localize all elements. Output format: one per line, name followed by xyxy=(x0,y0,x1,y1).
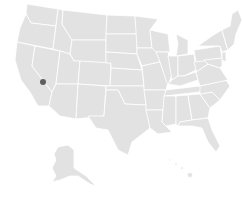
state-arkansas[interactable] xyxy=(144,90,166,110)
state-new-mexico[interactable] xyxy=(76,84,106,119)
state-kansas[interactable] xyxy=(110,68,144,86)
contiguous-us xyxy=(15,4,242,155)
state-montana[interactable] xyxy=(62,10,107,40)
location-marker[interactable] xyxy=(40,79,46,85)
state-florida[interactable] xyxy=(178,118,220,152)
state-nebraska[interactable] xyxy=(106,52,142,70)
state-south-dakota[interactable] xyxy=(106,34,137,54)
state-michigan[interactable] xyxy=(176,34,188,56)
state-wisconsin[interactable] xyxy=(150,30,170,52)
state-new-jersey[interactable] xyxy=(222,52,226,62)
state-arizona[interactable] xyxy=(49,84,78,119)
state-alaska[interactable] xyxy=(52,145,96,186)
state-hawaii-island-3[interactable] xyxy=(181,167,184,170)
state-mississippi[interactable] xyxy=(162,96,176,126)
state-hawaii-island-4[interactable] xyxy=(187,172,192,177)
state-hawaii-island-2[interactable] xyxy=(175,163,177,165)
state-north-dakota[interactable] xyxy=(106,15,137,34)
us-map xyxy=(0,0,242,202)
alaska xyxy=(52,145,96,186)
state-wyoming[interactable] xyxy=(70,40,106,63)
state-hawaii-island-1[interactable] xyxy=(169,159,171,161)
hawaii xyxy=(169,159,193,178)
state-colorado[interactable] xyxy=(78,61,111,86)
